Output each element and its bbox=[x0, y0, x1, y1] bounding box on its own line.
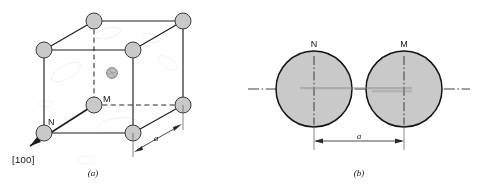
label-atom-n: N bbox=[48, 117, 55, 127]
atom-top-far-right bbox=[175, 13, 191, 29]
label-atom-m: M bbox=[103, 94, 111, 104]
label-sphere-m: M bbox=[400, 39, 408, 49]
label-direction-100: [100] bbox=[12, 154, 35, 165]
atom-top-front-right bbox=[125, 42, 141, 58]
atom-bottom-front-left bbox=[36, 125, 52, 141]
atom-top-back-left bbox=[36, 42, 52, 58]
atom-body-center-m bbox=[86, 97, 102, 113]
panel-b: N M a (b) bbox=[248, 39, 470, 178]
label-dimension-a-panel-a: a bbox=[154, 133, 158, 143]
panel-a: M N [100] a (a) bbox=[12, 13, 191, 178]
caption-panel-b: (b) bbox=[354, 168, 365, 178]
label-sphere-n: N bbox=[311, 39, 318, 49]
caption-panel-a: (a) bbox=[88, 168, 99, 178]
cube-hidden-edges bbox=[94, 21, 183, 105]
crystal-structure-figure: M N [100] a (a) bbox=[0, 0, 478, 189]
figure-canvas: M N [100] a (a) bbox=[0, 0, 478, 189]
atom-top-back-right bbox=[86, 13, 102, 29]
atoms bbox=[36, 13, 191, 141]
label-dimension-a-panel-b: a bbox=[357, 131, 361, 141]
